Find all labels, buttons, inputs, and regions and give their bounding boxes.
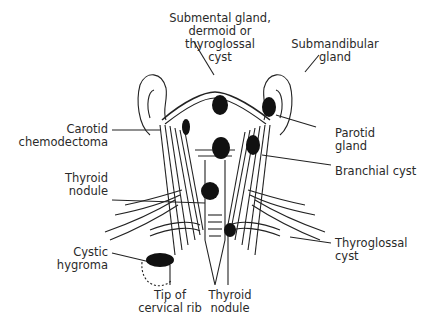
carotid-mass	[182, 119, 190, 135]
cystic-hygroma-mass	[146, 253, 174, 267]
branchial-mass	[246, 135, 260, 155]
label-line: nodule	[0, 185, 108, 198]
label-thyroid-bottom: Thyroid nodule	[198, 289, 262, 315]
label-line: Branchial cyst	[335, 165, 416, 178]
label-parotid: Parotid gland	[335, 127, 375, 153]
label-line: cyst	[140, 51, 300, 64]
label-line: gland	[335, 140, 375, 153]
label-branchial: Branchial cyst	[335, 165, 416, 178]
label-carotid: Carotid chemodectoma	[0, 123, 108, 149]
label-line: hygroma	[0, 259, 108, 272]
label-line: gland	[285, 51, 385, 64]
thyroglossal-mass	[212, 137, 230, 159]
label-line: nodule	[198, 302, 262, 315]
thyroid-bottom-mass	[224, 223, 236, 237]
label-submental: Submental gland, dermoid or thyroglossal…	[140, 12, 300, 64]
label-thyroglossal: Thyroglossal cyst	[335, 237, 407, 263]
thyroid-left-mass	[201, 182, 219, 200]
left-ear	[138, 75, 166, 135]
label-line: chemodectoma	[0, 136, 108, 149]
label-thyroid-left: Thyroid nodule	[0, 172, 108, 198]
label-line: cyst	[335, 250, 407, 263]
submandibular-mass	[262, 97, 276, 117]
submental-mass	[212, 95, 228, 115]
label-submandibular: Submandibular gland	[285, 38, 385, 64]
label-cystic-hygroma: Cystic hygroma	[0, 246, 108, 272]
